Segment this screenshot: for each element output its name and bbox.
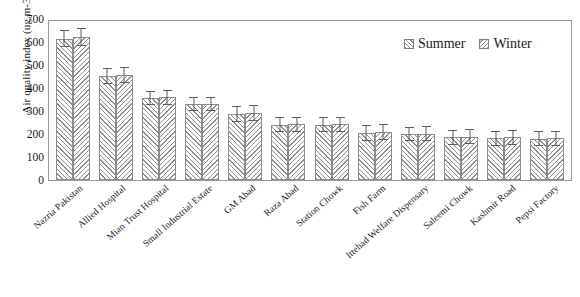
bar-wrapper xyxy=(245,21,262,180)
x-tick-label-text: Kashmir Road xyxy=(468,183,517,228)
y-tick-100: 100 xyxy=(14,152,44,164)
bar-wrapper xyxy=(271,21,288,180)
legend-item-winter[interactable]: Winter xyxy=(479,36,531,52)
error-bar xyxy=(64,30,65,47)
x-tick-label: Raza Abad xyxy=(262,183,301,218)
bar-winter[interactable] xyxy=(245,113,262,180)
x-tick-label: Pepsi Factory xyxy=(514,183,561,226)
bar-group xyxy=(137,21,180,180)
bar-wrapper xyxy=(202,21,219,180)
error-bar xyxy=(296,117,297,132)
bar-wrapper xyxy=(375,21,392,180)
bar-wrapper xyxy=(358,21,375,180)
bar-wrapper xyxy=(99,21,116,180)
error-bar xyxy=(409,127,410,142)
bar-wrapper xyxy=(73,21,90,180)
legend-swatch-icon xyxy=(404,39,414,49)
y-tick-400: 400 xyxy=(14,83,44,95)
legend-label: Winter xyxy=(493,36,531,52)
bar-wrapper xyxy=(547,21,564,180)
bar-summer[interactable] xyxy=(315,125,332,180)
bar-summer[interactable] xyxy=(185,104,202,180)
bar-wrapper xyxy=(116,21,133,180)
y-tick-200: 200 xyxy=(14,129,44,141)
error-bar xyxy=(555,131,556,146)
x-tick-label: Station Chowk xyxy=(294,183,344,229)
bar-winter[interactable] xyxy=(73,37,90,180)
error-bar xyxy=(323,117,324,132)
bar-winter[interactable] xyxy=(332,124,349,180)
bar-wrapper xyxy=(228,21,245,180)
x-tick-label-text: GM Abad xyxy=(222,183,258,216)
error-bar xyxy=(383,124,384,140)
bar-wrapper xyxy=(332,21,349,180)
bar-wrapper xyxy=(185,21,202,180)
bar-summer[interactable] xyxy=(56,39,73,180)
bar-summer[interactable] xyxy=(99,76,116,180)
error-bar xyxy=(452,130,453,145)
x-tick-label-text: Station Chowk xyxy=(294,183,344,229)
y-tick-700: 700 xyxy=(14,14,44,26)
bar-group xyxy=(51,21,94,180)
error-bar xyxy=(107,68,108,84)
bar-summer[interactable] xyxy=(271,125,288,180)
bar-group xyxy=(526,21,569,180)
x-tick-label-text: Pepsi Factory xyxy=(514,183,561,226)
error-bar xyxy=(495,131,496,146)
legend-label: Summer xyxy=(418,36,465,52)
legend-swatch-icon xyxy=(479,39,489,49)
error-bar xyxy=(124,67,125,83)
error-bar xyxy=(253,105,254,121)
bar-group xyxy=(353,21,396,180)
error-bar xyxy=(150,91,151,106)
x-tick-label: Fish Farm xyxy=(351,183,388,217)
error-bar xyxy=(193,97,194,112)
y-tick-500: 500 xyxy=(14,60,44,72)
error-bar xyxy=(512,130,513,145)
y-axis-tick-labels: 7006005004003002001000 xyxy=(12,0,44,297)
error-bar xyxy=(236,106,237,122)
error-bar xyxy=(81,28,82,45)
y-tick-300: 300 xyxy=(14,106,44,118)
bar-wrapper xyxy=(159,21,176,180)
bar-wrapper xyxy=(142,21,159,180)
bar-wrapper xyxy=(288,21,305,180)
x-tick-label-text: Raza Abad xyxy=(262,183,301,218)
x-axis-tick-labels: Nazria PakistanAllied HospitalMian Trust… xyxy=(48,183,572,295)
bar-summer[interactable] xyxy=(228,114,245,180)
x-tick-label: GM Abad xyxy=(222,183,258,216)
bar-winter[interactable] xyxy=(159,97,176,180)
y-tick-0: 0 xyxy=(14,175,44,187)
bar-group xyxy=(310,21,353,180)
error-bar xyxy=(279,117,280,132)
legend: SummerWinter xyxy=(404,36,532,52)
error-bar xyxy=(366,125,367,141)
bar-group xyxy=(267,21,310,180)
bar-wrapper xyxy=(530,21,547,180)
error-bar xyxy=(340,117,341,132)
bar-summer[interactable] xyxy=(142,98,159,180)
bar-winter[interactable] xyxy=(288,124,305,180)
error-bar xyxy=(210,97,211,112)
bar-winter[interactable] xyxy=(202,104,219,180)
bar-chart: Air quality index (ug.m-3) 7006005004003… xyxy=(0,0,580,297)
error-bar xyxy=(538,131,539,146)
bar-winter[interactable] xyxy=(116,75,133,180)
x-tick-label-text: Fish Farm xyxy=(351,183,388,217)
x-tick-label: Kashmir Road xyxy=(468,183,517,228)
y-tick-600: 600 xyxy=(14,37,44,49)
bar-group xyxy=(94,21,137,180)
error-bar xyxy=(469,129,470,144)
error-bar xyxy=(426,126,427,141)
bar-group xyxy=(224,21,267,180)
x-tick-label-text: Ittehad Welfare Dispensary xyxy=(344,183,431,260)
x-tick-label: Ittehad Welfare Dispensary xyxy=(344,183,431,260)
error-bar xyxy=(167,90,168,105)
bar-group xyxy=(181,21,224,180)
bar-wrapper xyxy=(315,21,332,180)
legend-item-summer[interactable]: Summer xyxy=(404,36,465,52)
bar-wrapper xyxy=(56,21,73,180)
